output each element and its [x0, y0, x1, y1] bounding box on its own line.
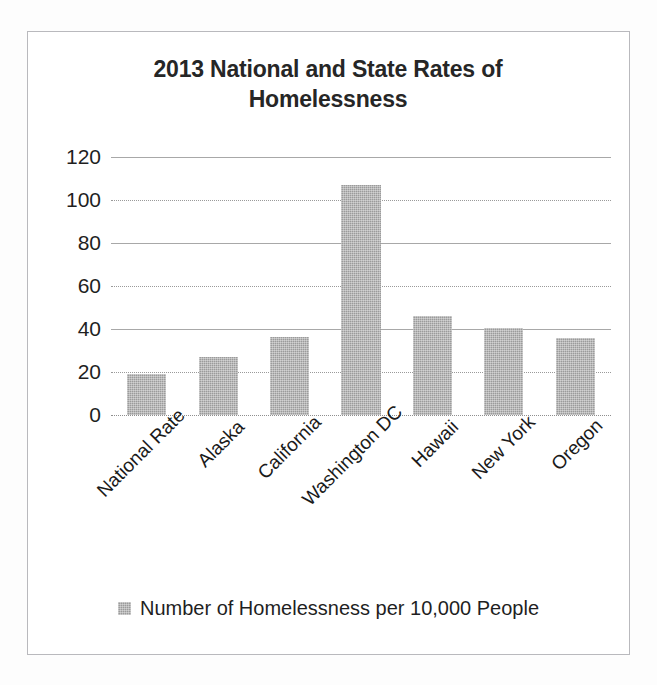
chart-title-line-2: Homelessness: [88, 84, 568, 114]
x-axis-tick-label: National Rate: [92, 404, 189, 501]
x-axis-tick-label: Alaska: [193, 416, 249, 472]
y-axis-tick-label: 100: [41, 188, 101, 212]
gridline: [111, 157, 611, 158]
chart-legend: Number of Homelessness per 10,000 People: [28, 597, 629, 620]
x-axis-tick-label: California: [253, 411, 325, 483]
y-axis-tick-label: 60: [41, 274, 101, 298]
x-axis-tick-label: Hawaii: [408, 416, 464, 472]
bar: [199, 357, 238, 415]
x-axis-tick-label: New York: [467, 411, 539, 483]
plot-area: 120100806040200 National RateAlaskaCalif…: [111, 157, 611, 415]
chart-title-line-1: 2013 National and State Rates of: [88, 54, 568, 84]
bar: [341, 185, 380, 415]
legend-swatch-icon: [118, 602, 131, 615]
x-axis-tick-label: Oregon: [547, 415, 607, 475]
y-axis-tick-label: 120: [41, 145, 101, 169]
y-axis-tick-label: 20: [41, 360, 101, 384]
bar: [556, 338, 595, 415]
bar: [413, 316, 452, 415]
bar: [127, 374, 166, 415]
y-axis-tick-label: 80: [41, 231, 101, 255]
legend-label: Number of Homelessness per 10,000 People: [140, 597, 539, 620]
bar: [270, 337, 309, 415]
y-axis-tick-label: 40: [41, 317, 101, 341]
bar: [484, 328, 523, 415]
scanned-page: 2013 National and State Rates of Homeles…: [0, 0, 657, 685]
y-axis-tick-label: 0: [41, 403, 101, 427]
chart-frame: 2013 National and State Rates of Homeles…: [27, 31, 630, 655]
chart-title: 2013 National and State Rates of Homeles…: [88, 54, 568, 115]
